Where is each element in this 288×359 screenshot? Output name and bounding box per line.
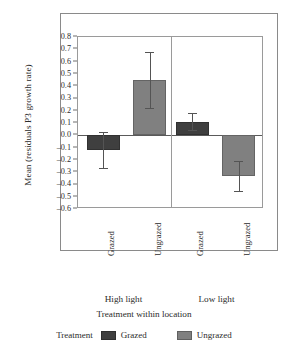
y-axis-tick-label: 0.3	[61, 92, 71, 103]
y-axis-tick: 0.4	[61, 80, 77, 91]
error-bar-cap-lower	[145, 108, 154, 109]
error-bar-cap-upper	[99, 132, 108, 133]
legend-label-ungrazed: Ungrazed	[197, 330, 232, 340]
x-axis-group-label: Low light	[170, 294, 263, 304]
x-axis-category-label: Ungrazed	[242, 223, 252, 256]
y-axis-tick-label: 0.2	[61, 104, 71, 115]
y-axis-tick: 0.5	[61, 67, 77, 78]
y-axis-tick: –0.5	[57, 190, 77, 201]
y-axis-tick: –0.4	[57, 178, 77, 189]
panel-divider-line	[171, 37, 172, 207]
y-axis-tick: 0.6	[61, 55, 77, 66]
error-bar-cap-lower	[234, 191, 243, 192]
y-axis-tick-label: 0.4	[61, 80, 71, 91]
legend-label-grazed: Grazed	[121, 330, 147, 340]
legend-swatch-ungrazed	[177, 331, 192, 340]
y-axis-tick-label: 0.0	[61, 129, 71, 140]
error-bar-cap-lower	[99, 168, 108, 169]
y-axis-title: Mean (residuals P3 growth rate)	[23, 35, 33, 215]
y-axis-tick-label: –0.1	[57, 141, 71, 152]
error-bar-cap-upper	[145, 52, 154, 53]
y-axis-tick: –0.3	[57, 166, 77, 177]
error-bar-cap-lower	[188, 130, 197, 131]
y-axis-tick: 0.3	[61, 92, 77, 103]
y-axis-tick-label: 0.1	[61, 117, 71, 128]
legend-swatch-grazed	[101, 331, 116, 340]
y-axis-tick: 0.7	[61, 43, 77, 54]
plot-inner	[78, 37, 262, 207]
y-axis-tick-label: –0.2	[57, 153, 71, 164]
error-bar-line	[239, 161, 240, 190]
figure: Mean (residuals P3 growth rate) 0.80.70.…	[0, 0, 288, 359]
error-bar-cap-upper	[188, 113, 197, 114]
error-bar-line	[150, 52, 151, 109]
error-bar-line	[103, 132, 104, 169]
y-axis-tick-label: –0.6	[57, 203, 71, 214]
y-axis: 0.80.70.60.50.40.30.20.10.0–0.1–0.2–0.3–…	[36, 36, 77, 208]
y-axis-tick: 0.1	[61, 117, 77, 128]
y-axis-tick: –0.1	[57, 141, 77, 152]
y-axis-tick-label: 0.7	[61, 43, 71, 54]
x-axis-category-label: Grazed	[106, 231, 116, 256]
legend-item-ungrazed: Ungrazed	[177, 330, 232, 340]
x-axis-group-label: High light	[77, 294, 170, 304]
y-axis-tick: –0.6	[57, 203, 77, 214]
error-bar-line	[192, 113, 193, 130]
y-axis-tick: 0.8	[61, 31, 77, 42]
y-axis-tick-label: –0.3	[57, 166, 71, 177]
y-axis-tick-label: 0.8	[61, 31, 71, 42]
legend-title: Treatment	[56, 330, 93, 340]
x-axis-title: Treatment within location	[0, 309, 288, 319]
x-axis-category-label: Grazed	[195, 231, 205, 256]
y-axis-tick-label: –0.4	[57, 178, 71, 189]
y-axis-tick: –0.2	[57, 153, 77, 164]
error-bar-cap-upper	[234, 161, 243, 162]
y-axis-tick: 0.2	[61, 104, 77, 115]
chart-legend: Treatment Grazed Ungrazed	[0, 330, 288, 340]
y-axis-tick-label: –0.5	[57, 190, 71, 201]
y-axis-tick-label: 0.6	[61, 55, 71, 66]
y-axis-tick-label: 0.5	[61, 67, 71, 78]
plot-area	[77, 36, 263, 208]
legend-item-grazed: Grazed	[101, 330, 147, 340]
y-axis-tick: 0.0	[61, 129, 77, 140]
x-axis-category-label: Ungrazed	[153, 223, 163, 256]
